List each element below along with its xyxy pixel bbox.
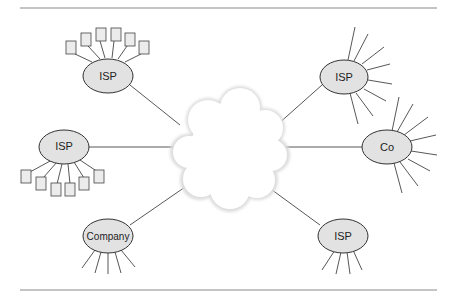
server-icon — [65, 183, 75, 196]
isp-top-right-group: ISP — [320, 27, 392, 124]
co-node-label: Co — [380, 141, 394, 153]
server-icon — [94, 170, 104, 183]
isp-node-left-label: ISP — [55, 140, 73, 152]
co-group: Co — [362, 97, 437, 193]
server-icon — [66, 41, 76, 54]
isp-node-bottom-right-label: ISP — [334, 230, 352, 242]
server-icon — [21, 170, 31, 183]
company-node-label: Company — [87, 231, 130, 242]
server-icons — [66, 28, 149, 54]
isp-top-left-group: ISP — [66, 28, 149, 93]
server-icon — [125, 33, 135, 46]
isp-node-top-right-label: ISP — [335, 71, 353, 83]
internet-cloud — [170, 86, 290, 212]
isp-node-top-left-label: ISP — [99, 70, 117, 82]
isp-bottom-right-group: ISP — [318, 219, 368, 274]
server-icons — [21, 170, 104, 196]
server-icon — [139, 41, 149, 54]
isp-left-group: ISP — [21, 130, 104, 196]
network-diagram: ISP ISP Compa — [0, 0, 459, 292]
server-icon — [79, 177, 89, 190]
server-icon — [96, 28, 106, 41]
server-icon — [36, 177, 46, 190]
company-group: Company — [82, 219, 135, 274]
server-icon — [51, 183, 61, 196]
server-icon — [111, 28, 121, 41]
server-icon — [81, 33, 91, 46]
